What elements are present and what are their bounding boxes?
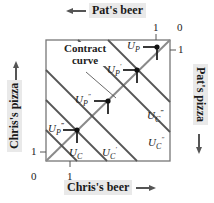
tick-label-right-one: 1	[178, 43, 184, 55]
left-axis-title: Chris's pizza	[7, 80, 22, 152]
contract-curve-label-line2: curve	[64, 54, 106, 66]
label-uc: UC	[69, 145, 82, 161]
label-uc-prime: UC′	[102, 145, 117, 161]
contract-curve-label: Contract curve	[64, 42, 106, 66]
label-uc-triple-prime: UC‴	[147, 108, 163, 124]
arrow-up-icon	[13, 61, 19, 81]
bottom-axis-title: Chris's beer	[64, 180, 132, 195]
label-up-prime: UP′	[107, 62, 121, 78]
label-up-double-prime: UP″	[75, 92, 91, 108]
label-uc-double-prime: UC″	[148, 135, 164, 151]
label-up-triple-prime: UP‴	[48, 121, 64, 137]
contract-curve-label-line1: Contract	[64, 42, 106, 54]
right-axis-title: Pat's pizza	[193, 64, 208, 125]
point-up-prime	[123, 67, 140, 83]
tick-label-origin-bottom: 0	[31, 170, 37, 182]
arrow-down-icon	[196, 134, 202, 154]
tick-label-left-one: 1	[31, 145, 37, 157]
arrow-right-icon	[136, 185, 156, 191]
label-up: UP	[127, 38, 140, 54]
arrow-left-icon	[66, 8, 86, 14]
top-axis-title: Pat's beer	[89, 3, 146, 18]
tick-label-bottom-one: 1	[67, 170, 73, 182]
tick-label-top-one: 1	[153, 21, 159, 33]
tick-label-origin-top: 0	[177, 21, 183, 33]
